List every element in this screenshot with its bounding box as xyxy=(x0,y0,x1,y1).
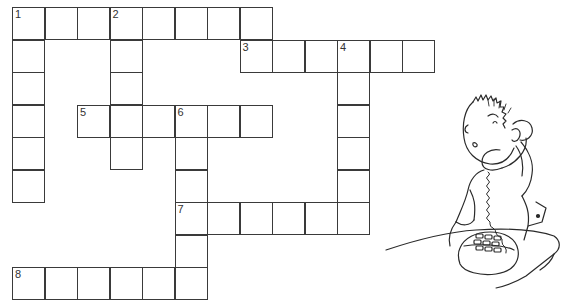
crossword-cell[interactable] xyxy=(12,40,45,73)
clue-number: 7 xyxy=(178,204,184,215)
crossword-cell[interactable] xyxy=(305,40,338,73)
crossword-cell[interactable] xyxy=(110,137,143,170)
crossword-cell[interactable] xyxy=(110,267,143,300)
clue-number: 6 xyxy=(178,107,184,118)
crossword-cell[interactable] xyxy=(110,72,143,105)
crossword-cell[interactable] xyxy=(240,202,273,235)
crossword-cell[interactable] xyxy=(45,7,78,40)
crossword-cell[interactable] xyxy=(337,170,370,203)
clue-number: 5 xyxy=(80,107,86,118)
crossword-cell[interactable] xyxy=(77,267,110,300)
crossword-cell[interactable] xyxy=(12,137,45,170)
crossword-cell[interactable] xyxy=(175,235,208,268)
crossword-cell[interactable] xyxy=(12,72,45,105)
clue-number: 4 xyxy=(340,42,346,53)
crossword-cell[interactable] xyxy=(207,202,240,235)
crossword-cell[interactable]: 5 xyxy=(77,105,110,138)
crossword-cell[interactable] xyxy=(45,267,78,300)
crossword-cell[interactable] xyxy=(175,170,208,203)
crossword-cell[interactable]: 1 xyxy=(12,7,45,40)
clue-number: 3 xyxy=(243,42,249,53)
crossword-cell[interactable] xyxy=(337,137,370,170)
boy-on-phone-illustration xyxy=(376,80,571,292)
crossword-cell[interactable] xyxy=(175,7,208,40)
crossword-cell[interactable] xyxy=(110,105,143,138)
clue-number: 8 xyxy=(15,269,21,280)
crossword-cell[interactable] xyxy=(12,170,45,203)
crossword-cell[interactable] xyxy=(337,105,370,138)
crossword-cell[interactable] xyxy=(337,202,370,235)
crossword-cell[interactable] xyxy=(402,40,435,73)
crossword-cell[interactable] xyxy=(142,267,175,300)
crossword-cell[interactable]: 4 xyxy=(337,40,370,73)
crossword-cell[interactable] xyxy=(12,105,45,138)
crossword-cell[interactable] xyxy=(77,7,110,40)
clue-number: 2 xyxy=(113,9,119,20)
crossword-cell[interactable] xyxy=(240,7,273,40)
clue-number: 1 xyxy=(15,9,21,20)
crossword-cell[interactable] xyxy=(272,202,305,235)
crossword-cell[interactable] xyxy=(305,202,338,235)
crossword-cell[interactable] xyxy=(142,7,175,40)
crossword-cell[interactable] xyxy=(207,105,240,138)
crossword-cell[interactable] xyxy=(207,7,240,40)
crossword-cell[interactable]: 6 xyxy=(175,105,208,138)
crossword-cell[interactable] xyxy=(142,105,175,138)
crossword-cell[interactable]: 7 xyxy=(175,202,208,235)
crossword-cell[interactable] xyxy=(175,267,208,300)
crossword-cell[interactable]: 8 xyxy=(12,267,45,300)
crossword-cell[interactable] xyxy=(370,40,403,73)
crossword-cell[interactable] xyxy=(175,137,208,170)
crossword-cell[interactable] xyxy=(240,105,273,138)
crossword-cell[interactable]: 2 xyxy=(110,7,143,40)
crossword-cell[interactable]: 3 xyxy=(240,40,273,73)
crossword-grid: 12345678 xyxy=(0,0,440,292)
crossword-cell[interactable] xyxy=(110,40,143,73)
crossword-cell[interactable] xyxy=(337,72,370,105)
crossword-cell[interactable] xyxy=(272,40,305,73)
